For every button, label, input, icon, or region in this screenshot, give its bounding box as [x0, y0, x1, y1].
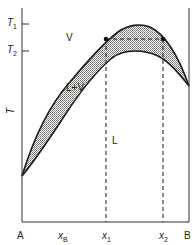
- tick-label-t2: T2: [7, 45, 17, 57]
- region-label-two-phase: L+V: [66, 83, 84, 93]
- x-marker-label-x1: x1: [102, 231, 111, 243]
- x-axis-left-end-label: A: [17, 231, 24, 241]
- region-label-liquid: L: [112, 136, 118, 146]
- phase-diagram-graphic: [0, 0, 196, 245]
- tick-label-t1: T1: [7, 18, 17, 30]
- y-axis-label: T: [6, 108, 16, 114]
- x-marker-label-x2: x2: [159, 231, 168, 243]
- region-label-vapor: V: [66, 33, 73, 43]
- x-axis-right-end-label: B: [184, 231, 191, 241]
- point-x2-t2: [161, 37, 166, 42]
- point-x1-t2: [104, 37, 109, 42]
- x-axis-variable-label: xB: [58, 231, 68, 243]
- phase-diagram: T1 T2 T V L+V L A xB x1 x2 B: [0, 0, 196, 245]
